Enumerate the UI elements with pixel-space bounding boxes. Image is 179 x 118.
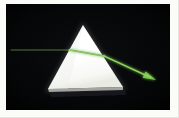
- photo-image-field: [6, 4, 170, 110]
- optics-scene-svg: [6, 4, 170, 110]
- laser-entry-spot: [68, 48, 71, 51]
- laser-exit-spot: [103, 55, 106, 58]
- prism-photograph: Photograph of a white triangular prism o…: [0, 0, 179, 118]
